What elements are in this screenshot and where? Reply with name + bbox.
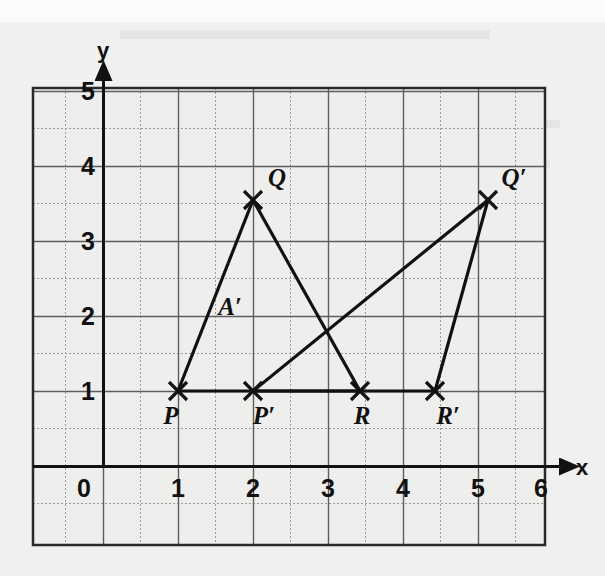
point-label-q-prime: Q′ bbox=[501, 164, 526, 191]
point-label-p: P bbox=[162, 402, 179, 429]
x-tick-label-5: 5 bbox=[471, 474, 485, 502]
x-tick-label-1: 1 bbox=[171, 474, 185, 502]
point-label-r: R bbox=[353, 402, 371, 429]
point-label-p-prime: P′ bbox=[252, 402, 275, 429]
y-tick-label-2: 2 bbox=[81, 302, 95, 330]
x-tick-label-6: 6 bbox=[534, 474, 548, 502]
y-tick-label-3: 3 bbox=[81, 227, 95, 255]
x-tick-label-4: 4 bbox=[396, 474, 410, 502]
y-tick-label-4: 4 bbox=[81, 152, 95, 180]
point-label-r-prime: R′ bbox=[435, 402, 460, 429]
figure-svg-canvas: y x 0 1 2 3 4 5 6 1 2 3 4 5 bbox=[0, 0, 605, 576]
annotation-label-a-prime: A′ bbox=[216, 293, 242, 320]
x-tick-label-0: 0 bbox=[77, 474, 91, 502]
x-tick-label-3: 3 bbox=[321, 474, 335, 502]
y-tick-label-1: 1 bbox=[81, 377, 95, 405]
coordinate-grid-figure: y x 0 1 2 3 4 5 6 1 2 3 4 5 bbox=[0, 0, 605, 576]
y-tick-label-5: 5 bbox=[81, 77, 95, 105]
x-tick-label-2: 2 bbox=[246, 474, 260, 502]
point-label-q: Q bbox=[268, 164, 286, 191]
y-axis-label: y bbox=[97, 38, 110, 63]
x-axis-label: x bbox=[576, 455, 589, 480]
